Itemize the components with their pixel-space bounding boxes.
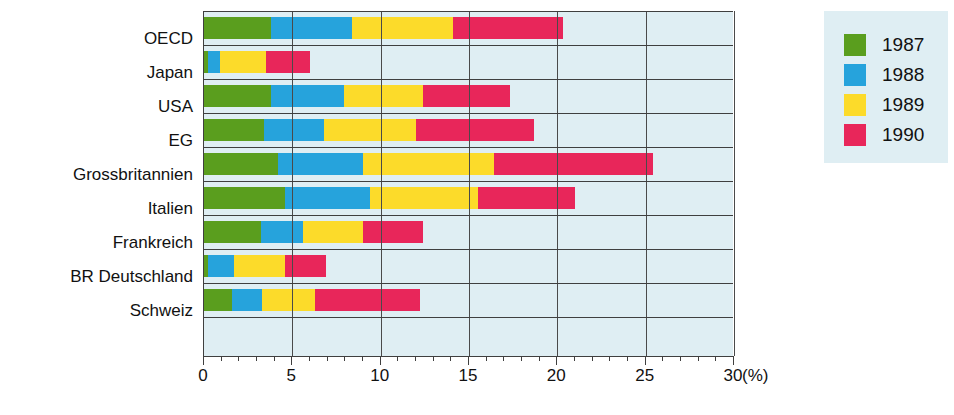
bar-segment-1988 (208, 51, 220, 73)
bar-segment-1987 (204, 119, 264, 141)
vertical-gridline (292, 11, 293, 356)
x-tick-minor (256, 356, 257, 361)
category-label: EG (0, 124, 193, 158)
x-tick-minor (415, 356, 416, 361)
bar-segment-1988 (261, 221, 303, 243)
x-tick-minor (327, 356, 328, 361)
bar-segment-1987 (204, 289, 232, 311)
bar-segment-1987 (204, 153, 278, 175)
horizontal-gridline (204, 283, 733, 284)
bar-segment-1990 (494, 153, 653, 175)
x-tick-major (203, 356, 204, 365)
bar-segment-1989 (303, 221, 363, 243)
category-label: Schweiz (0, 294, 193, 328)
category-label: Italien (0, 192, 193, 226)
bar-segment-1988 (264, 119, 324, 141)
x-tick-label: 15 (459, 366, 478, 386)
stacked-bar (204, 119, 534, 141)
bar-segment-1989 (370, 187, 478, 209)
x-tick-minor (662, 356, 663, 361)
x-tick-minor (344, 356, 345, 361)
x-tick-label: 20 (547, 366, 566, 386)
category-axis-labels: OECDJapanUSAEGGrossbritannienItalienFran… (0, 22, 193, 328)
legend-item[interactable]: 1989 (844, 93, 924, 117)
horizontal-gridline (204, 113, 733, 114)
x-tick-minor (503, 356, 504, 361)
x-tick-minor (539, 356, 540, 361)
horizontal-gridline (204, 79, 733, 80)
legend-swatch-1990 (844, 124, 866, 146)
x-tick-label: 25 (635, 366, 654, 386)
x-tick-minor (715, 356, 716, 361)
bar-segment-1989 (220, 51, 266, 73)
x-tick-major (468, 356, 469, 365)
bar-segment-1989 (324, 119, 416, 141)
x-tick-minor (274, 356, 275, 361)
legend-label: 1990 (882, 124, 924, 146)
bar-segment-1987 (204, 221, 261, 243)
bar-segment-1990 (478, 187, 575, 209)
legend-label: 1989 (882, 94, 924, 116)
x-tick-minor (698, 356, 699, 361)
x-tick-label: 30 (724, 366, 743, 386)
x-axis-unit-label: (%) (742, 366, 768, 386)
bar-segment-1989 (352, 17, 453, 39)
bar-segment-1990 (315, 289, 419, 311)
horizontal-gridline (204, 215, 733, 216)
x-tick-minor (309, 356, 310, 361)
vertical-gridline (381, 11, 382, 356)
bar-segment-1990 (423, 85, 510, 107)
x-tick-minor (238, 356, 239, 361)
bar-segment-1989 (234, 255, 285, 277)
legend-swatch-1988 (844, 64, 866, 86)
x-tick-label: 0 (198, 366, 207, 386)
x-tick-major (291, 356, 292, 365)
legend-label: 1988 (882, 64, 924, 86)
bar-segment-1988 (271, 17, 352, 39)
horizontal-gridline (204, 147, 733, 148)
bar-segment-1989 (344, 85, 424, 107)
chart-legend: 1987198819891990 (824, 11, 948, 163)
bar-segment-1987 (204, 85, 271, 107)
x-tick-minor (609, 356, 610, 361)
category-label: OECD (0, 22, 193, 56)
stacked-bar (204, 17, 563, 39)
vertical-gridline (646, 11, 647, 356)
x-tick-minor (592, 356, 593, 361)
plot-area (203, 11, 733, 356)
legend-item[interactable]: 1987 (844, 33, 924, 57)
horizontal-gridline (204, 249, 733, 250)
bar-segment-1990 (363, 221, 423, 243)
vertical-gridline (469, 11, 470, 356)
stacked-bar (204, 51, 310, 73)
legend-item[interactable]: 1988 (844, 63, 924, 87)
bar-segment-1988 (285, 187, 370, 209)
bar-segment-1987 (204, 187, 285, 209)
x-tick-minor (397, 356, 398, 361)
stacked-bar (204, 85, 510, 107)
x-tick-minor (486, 356, 487, 361)
x-tick-minor (627, 356, 628, 361)
legend-item[interactable]: 1990 (844, 123, 924, 147)
legend-swatch-1987 (844, 34, 866, 56)
stacked-bar (204, 255, 326, 277)
x-tick-minor (221, 356, 222, 361)
horizontal-gridline (204, 45, 733, 46)
stacked-bar (204, 289, 420, 311)
bar-segment-1988 (278, 153, 363, 175)
bar-segment-1989 (363, 153, 494, 175)
vertical-gridline (734, 11, 735, 356)
horizontal-gridline (204, 317, 733, 318)
category-label: Grossbritannien (0, 158, 193, 192)
x-tick-minor (433, 356, 434, 361)
bar-segment-1989 (262, 289, 315, 311)
x-tick-minor (362, 356, 363, 361)
horizontal-gridline (204, 11, 733, 12)
horizontal-gridline (204, 181, 733, 182)
stacked-bar (204, 153, 653, 175)
bar-segment-1990 (416, 119, 534, 141)
bar-segment-1987 (204, 17, 271, 39)
category-label: Japan (0, 56, 193, 90)
legend-swatch-1989 (844, 94, 866, 116)
legend-label: 1987 (882, 34, 924, 56)
